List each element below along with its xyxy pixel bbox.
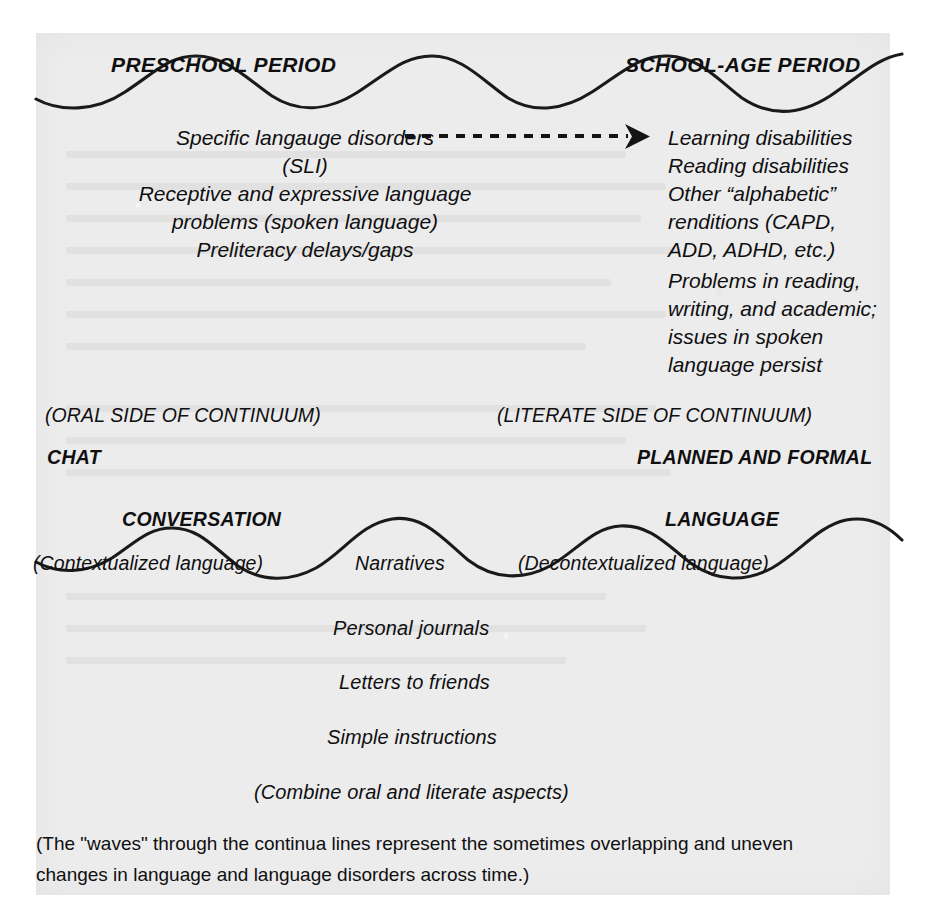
preschool-line-4: problems (spoken language) (85, 208, 525, 236)
conversation-heading: CONVERSATION (122, 508, 281, 531)
school-age-problem-line-1: Problems in reading, (668, 267, 918, 295)
language-heading: LANGUAGE (665, 508, 779, 531)
contextualized-language-label: (Contextualized language) (33, 552, 263, 575)
literate-side-label: (LITERATE SIDE OF CONTINUUM) (497, 404, 812, 427)
preschool-disorders-list: Specific langauge disorders (SLI) Recept… (85, 124, 525, 264)
oral-side-label: (ORAL SIDE OF CONTINUUM) (45, 404, 321, 427)
school-age-disorders-list: Learning disabilities Reading disabiliti… (668, 124, 918, 264)
school-age-line-3: Other “alphabetic” (668, 180, 918, 208)
narratives-label: Narratives (355, 552, 445, 575)
school-age-line-1: Learning disabilities (668, 124, 918, 152)
school-age-line-2: Reading disabilities (668, 152, 918, 180)
school-age-line-4: renditions (CAPD, (668, 208, 918, 236)
preschool-period-heading: PRESCHOOL PERIOD (111, 53, 336, 77)
school-age-problems-list: Problems in reading, writing, and academ… (668, 267, 918, 379)
school-age-problem-line-4: language persist (668, 351, 918, 379)
example-simple-instructions: Simple instructions (327, 726, 497, 749)
preschool-line-3: Receptive and expressive language (85, 180, 525, 208)
planned-formal-mode-label: PLANNED AND FORMAL (637, 446, 872, 469)
waves-footnote-line-1: (The "waves" through the continua lines … (36, 828, 888, 859)
school-age-period-heading: SCHOOL-AGE PERIOD (625, 53, 860, 77)
school-age-problem-line-3: issues in spoken (668, 323, 918, 351)
example-letters-to-friends: Letters to friends (339, 671, 490, 694)
school-age-problem-line-2: writing, and academic; (668, 295, 918, 323)
waves-footnote-line-2: changes in language and language disorde… (36, 859, 888, 890)
waves-footnote: (The "waves" through the continua lines … (36, 828, 888, 890)
preschool-line-1: Specific langauge disorders (85, 124, 525, 152)
chat-mode-label: CHAT (47, 446, 101, 469)
combine-oral-literate-summary: (Combine oral and literate aspects) (254, 781, 569, 804)
school-age-line-5: ADD, ADHD, etc.) (668, 236, 918, 264)
preschool-line-5: Preliteracy delays/gaps (85, 236, 525, 264)
decontextualized-language-label: (Decontextualized language) (518, 552, 769, 575)
figure-canvas: PRESCHOOL PERIOD SCHOOL-AGE PERIOD Speci… (0, 0, 925, 918)
preschool-line-2: (SLI) (85, 152, 525, 180)
example-personal-journals: Personal journals (333, 617, 489, 640)
